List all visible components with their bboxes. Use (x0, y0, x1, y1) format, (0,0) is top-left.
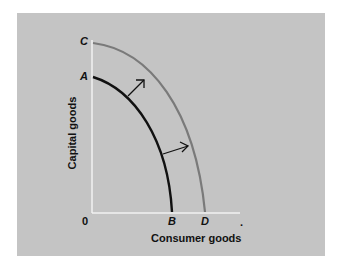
label-b: B (168, 215, 176, 227)
label-c: C (80, 35, 88, 47)
arrow-upper-icon (128, 80, 144, 96)
stray-dot: . (240, 216, 243, 228)
arrow-lower-icon (163, 142, 188, 154)
label-origin: 0 (82, 215, 88, 227)
label-a: A (80, 70, 88, 82)
ppf-chart (0, 0, 340, 268)
label-d: D (201, 215, 209, 227)
x-axis-label: Consumer goods (151, 232, 241, 244)
curve-ab (93, 77, 172, 212)
y-axis-label: Capital goods (66, 83, 78, 183)
